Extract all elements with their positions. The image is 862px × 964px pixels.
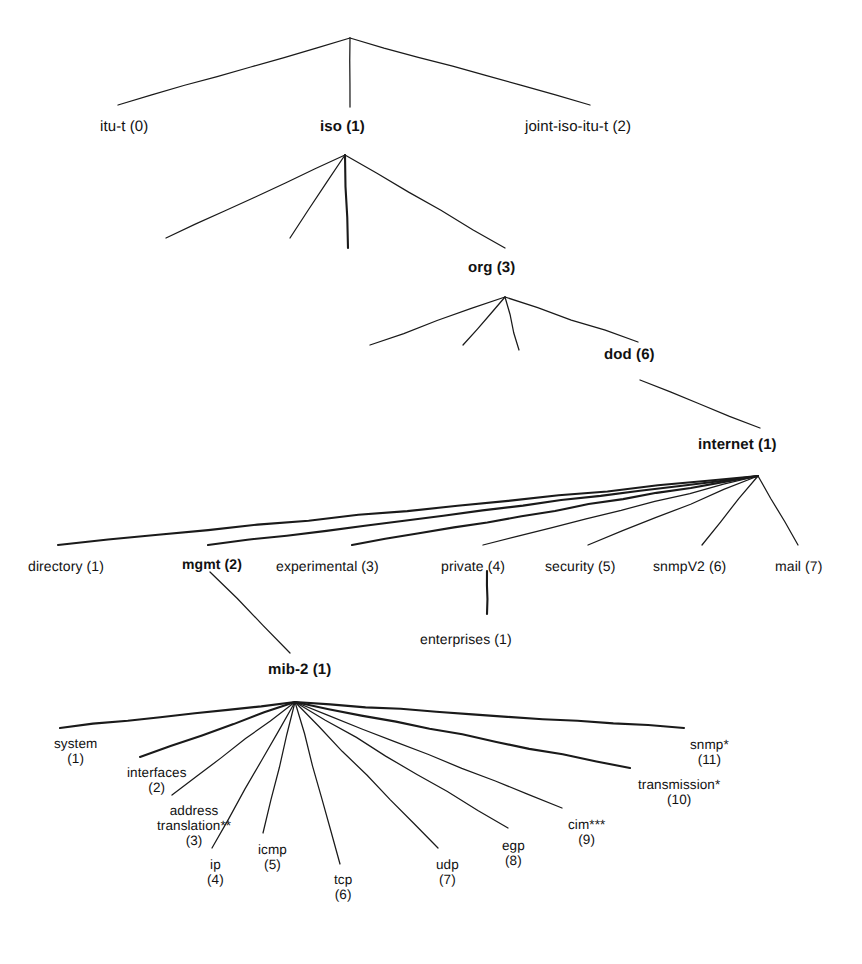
node-label-iso[interactable]: iso (1) (320, 119, 365, 136)
oid-tree-diagram: itu-t (0)iso (1)joint-iso-itu-t (2)org (… (0, 0, 862, 964)
edge-iso-to-unlabeled-a (166, 155, 345, 238)
edge-mib-2-to-egp (295, 702, 508, 828)
edge-mib-2-to-icmp (263, 702, 295, 833)
node-label-mgmt[interactable]: mgmt (2) (182, 557, 242, 573)
label-line-1: interfaces (127, 765, 187, 780)
edge-root-to-itu-t (118, 38, 350, 105)
node-label-joint-iso-itu-t[interactable]: joint-iso-itu-t (2) (525, 119, 631, 136)
node-label-dod[interactable]: dod (6) (604, 347, 655, 364)
node-label-internet[interactable]: internet (1) (698, 437, 777, 454)
node-label-private[interactable]: private (4) (441, 559, 505, 575)
edge-iso-to-unlabeled-c (345, 155, 348, 248)
label-line-number: (3) (157, 833, 231, 848)
node-label-address-translation[interactable]: addresstranslation**(3) (157, 803, 231, 848)
node-label-udp[interactable]: udp(7) (436, 857, 459, 887)
node-label-tcp[interactable]: tcp(6) (334, 872, 352, 902)
edge-mib-2-to-tcp (295, 702, 340, 864)
label-line-number: (8) (502, 853, 525, 868)
label-line-1: tcp (334, 872, 352, 887)
edge-private-to-enterprises (487, 571, 488, 614)
edge-org-to-unlabeled-f (505, 297, 519, 350)
tree-edges-layer (0, 0, 862, 964)
label-line-1: address (170, 803, 219, 818)
label-line-number: (10) (638, 792, 720, 807)
edge-root-to-joint-iso-itu-t (350, 38, 590, 105)
label-line-1b: translation** (157, 818, 231, 833)
label-line-1: cim*** (568, 817, 605, 832)
edge-internet-to-private (483, 476, 758, 545)
node-label-experimental[interactable]: experimental (3) (276, 559, 379, 575)
edge-group (58, 38, 798, 864)
node-label-icmp[interactable]: icmp(5) (258, 842, 287, 872)
node-label-mib-2[interactable]: mib-2 (1) (268, 662, 331, 679)
edge-org-to-dod (505, 297, 638, 342)
label-line-1: udp (436, 857, 459, 872)
node-label-snmpV2[interactable]: snmpV2 (6) (653, 559, 726, 575)
node-label-itu-t[interactable]: itu-t (0) (100, 119, 148, 136)
label-line-number: (1) (54, 751, 97, 766)
edge-mgmt-to-mib-2 (210, 572, 290, 653)
label-line-1: ip (210, 857, 221, 872)
edge-internet-to-mail (758, 476, 798, 545)
edge-dod-to-internet (640, 380, 760, 428)
node-label-interfaces[interactable]: interfaces(2) (127, 765, 187, 795)
edge-mib-2-to-udp (295, 702, 438, 848)
label-line-1: system (54, 736, 97, 751)
node-label-system[interactable]: system(1) (54, 736, 97, 766)
label-line-1: egp (502, 838, 525, 853)
node-label-transmission[interactable]: transmission*(10) (638, 777, 720, 807)
label-line-number: (2) (127, 780, 187, 795)
label-line-number: (7) (436, 872, 459, 887)
node-label-mail[interactable]: mail (7) (775, 559, 822, 575)
label-line-number: (6) (334, 887, 352, 902)
edge-mib-2-to-address-translation (172, 702, 295, 795)
label-line-1: snmp* (690, 737, 729, 752)
node-label-cim[interactable]: cim***(9) (568, 817, 605, 847)
node-label-org[interactable]: org (3) (468, 260, 515, 277)
node-label-enterprises[interactable]: enterprises (1) (420, 632, 512, 648)
label-line-1: icmp (258, 842, 287, 857)
label-line-number: (11) (690, 752, 729, 767)
edge-mib-2-to-transmission (295, 702, 630, 768)
node-label-snmp[interactable]: snmp*(11) (690, 737, 729, 767)
node-label-directory[interactable]: directory (1) (28, 559, 104, 575)
node-label-ip[interactable]: ip(4) (207, 857, 224, 887)
node-label-security[interactable]: security (5) (545, 559, 615, 575)
label-line-number: (4) (207, 872, 224, 887)
label-line-number: (5) (258, 857, 287, 872)
label-line-number: (9) (568, 832, 605, 847)
edge-iso-to-org (345, 155, 505, 248)
label-line-1: transmission* (638, 777, 720, 792)
node-label-egp[interactable]: egp(8) (502, 838, 525, 868)
